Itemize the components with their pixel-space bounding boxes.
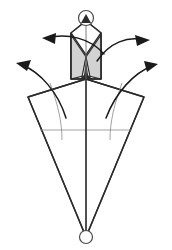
bottom-hub-group <box>80 231 93 244</box>
figure-root: Collapsible umbrella canopy deployment d… <box>0 0 172 250</box>
umbrella-mechanism-diagram <box>0 0 172 250</box>
top-hub-group <box>79 11 94 26</box>
runner-hub-ring <box>80 231 93 244</box>
